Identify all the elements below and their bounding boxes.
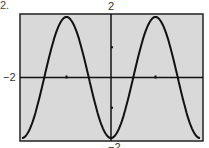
graph-screen [0, 0, 209, 148]
